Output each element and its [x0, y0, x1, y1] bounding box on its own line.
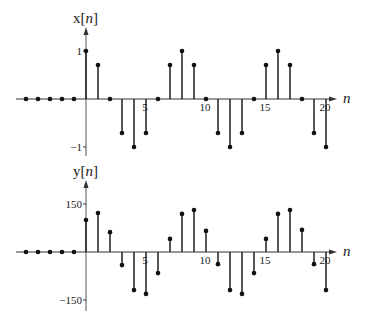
stem-marker	[264, 63, 269, 68]
stem-marker	[252, 271, 257, 276]
y-tick-label: −1	[70, 141, 82, 153]
stem-marker	[228, 288, 233, 293]
stem-marker	[264, 237, 269, 242]
y-stem-plot: ny[n]150−1505101520	[16, 163, 351, 311]
stem-marker	[276, 212, 281, 217]
stem-marker	[180, 212, 185, 217]
stem-marker	[156, 271, 161, 276]
stem-marker	[60, 97, 65, 102]
stem-marker	[168, 63, 173, 68]
x-tick-label: 20	[320, 254, 332, 266]
stem-marker	[276, 49, 281, 54]
stem-marker	[240, 131, 245, 136]
stem-marker	[36, 250, 41, 255]
x-tick-label: 5	[142, 101, 148, 113]
stem-marker	[288, 208, 293, 213]
stem-marker	[72, 250, 77, 255]
stem-marker	[96, 211, 101, 216]
stem-marker	[300, 228, 305, 233]
stem-marker	[240, 292, 245, 297]
y-tick-label: 150	[66, 198, 83, 210]
y-tick-label: −150	[59, 294, 82, 306]
stem-marker	[192, 208, 197, 213]
stem-marker	[132, 288, 137, 293]
stem-marker	[96, 63, 101, 68]
x-tick-label: 10	[200, 254, 212, 266]
stem-marker	[144, 292, 149, 297]
stem-marker	[312, 131, 317, 136]
stem-marker	[288, 63, 293, 68]
y-tick-label: 1	[77, 45, 83, 57]
stem-marker	[48, 97, 53, 102]
stem-marker	[228, 145, 233, 150]
plot-title: y[n]	[73, 163, 98, 179]
stem-marker	[72, 97, 77, 102]
stem-marker	[324, 288, 329, 293]
stem-marker	[48, 250, 53, 255]
x-axis-label: n	[343, 90, 351, 106]
stem-marker	[216, 262, 221, 267]
x-stem-plot: nx[n]1−15101520	[16, 10, 351, 156]
stem-marker	[180, 49, 185, 54]
stem-marker	[192, 63, 197, 68]
x-axis-label: n	[343, 243, 351, 259]
stem-marker	[84, 49, 89, 54]
stem-marker	[204, 97, 209, 102]
stem-marker	[132, 145, 137, 150]
stem-marker	[84, 218, 89, 223]
stem-marker	[156, 97, 161, 102]
x-tick-label: 15	[260, 101, 272, 113]
stem-marker	[120, 131, 125, 136]
stem-marker	[216, 131, 221, 136]
stem-marker	[168, 237, 173, 242]
stem-marker	[252, 97, 257, 102]
stem-marker	[36, 97, 41, 102]
stem-marker	[108, 97, 113, 102]
x-tick-label: 20	[320, 101, 332, 113]
stem-marker	[24, 97, 29, 102]
stem-marker	[108, 230, 113, 235]
stem-marker	[144, 131, 149, 136]
stem-marker	[324, 145, 329, 150]
figure: nx[n]1−15101520 ny[n]150−1505101520	[0, 0, 365, 321]
x-tick-label: 5	[142, 254, 148, 266]
stem-marker	[120, 263, 125, 268]
x-tick-label: 10	[200, 101, 212, 113]
stem-marker	[300, 97, 305, 102]
stem-marker	[312, 262, 317, 267]
y-axis-arrow-icon	[84, 180, 89, 188]
stem-marker	[60, 250, 65, 255]
x-tick-label: 15	[260, 254, 272, 266]
plot-title: x[n]	[73, 10, 98, 26]
stem-marker	[24, 250, 29, 255]
y-axis-arrow-icon	[84, 27, 89, 35]
stem-marker	[204, 229, 209, 234]
